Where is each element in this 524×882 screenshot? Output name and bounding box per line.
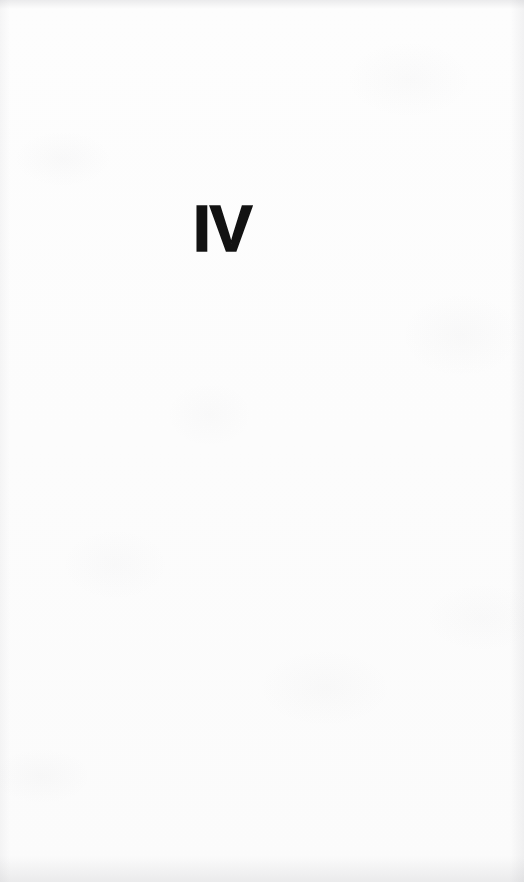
scan-edge-shadow-top bbox=[0, 0, 524, 9]
scan-edge-shadow-left bbox=[0, 0, 10, 882]
scan-edge-shadow-right bbox=[510, 0, 524, 882]
part-title-page: IV bbox=[0, 0, 524, 882]
part-number: IV bbox=[193, 205, 262, 252]
scan-edge-shadow-bottom bbox=[0, 856, 524, 882]
